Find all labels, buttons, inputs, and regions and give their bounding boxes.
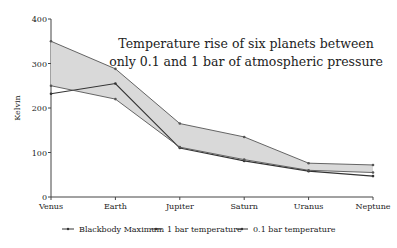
data-point	[50, 40, 53, 43]
data-point	[372, 164, 375, 167]
y-tick-label: 400	[32, 15, 47, 24]
series-line	[51, 86, 373, 173]
x-tick-label: Venus	[38, 202, 63, 211]
y-axis: 0100200300400	[32, 15, 51, 202]
chart-title-line1: Temperature rise of six planets between	[118, 36, 373, 51]
x-tick-label: Jupiter	[165, 202, 194, 211]
data-point	[243, 158, 246, 161]
data-point	[114, 98, 117, 101]
data-point	[307, 169, 310, 172]
legend-item-label: 0.1 bar temperature	[253, 225, 336, 234]
data-point	[372, 175, 375, 178]
data-point	[50, 84, 53, 87]
y-tick-label: 0	[42, 193, 47, 202]
data-point	[372, 171, 375, 174]
x-tick-label: Earth	[104, 202, 127, 211]
chart-title-line2: only 0.1 and 1 bar of atmospheric pressu…	[109, 54, 383, 69]
y-tick-label: 300	[32, 60, 47, 69]
x-axis: VenusEarthJupiterSaturnUranusNeptune	[38, 197, 391, 211]
data-point	[307, 162, 310, 165]
y-axis-label: Kelvin	[13, 95, 22, 120]
data-point	[179, 146, 182, 149]
data-point	[179, 122, 182, 125]
data-point	[114, 82, 117, 85]
y-tick-label: 100	[32, 149, 47, 158]
x-tick-label: Neptune	[355, 202, 390, 211]
y-tick-label: 200	[32, 104, 47, 113]
legend-item-label: 1 bar temperature	[167, 225, 242, 234]
data-point	[243, 136, 246, 139]
legend: Blackbody Maximum1 bar temperature0.1 ba…	[62, 225, 336, 234]
x-tick-label: Saturn	[230, 202, 258, 211]
x-tick-label: Uranus	[294, 202, 324, 211]
line-chart: 0100200300400 VenusEarthJupiterSaturnUra…	[0, 0, 397, 248]
data-point	[50, 92, 53, 95]
